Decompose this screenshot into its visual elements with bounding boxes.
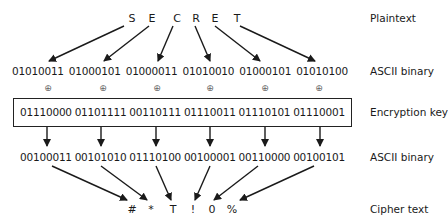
xor-icon: ⊕ (44, 83, 52, 93)
key-value: 01110011 (184, 106, 236, 118)
ciphertext-label: Cipher text (370, 203, 428, 215)
key-value: 01110001 (293, 106, 345, 118)
binary-value: 01010100 (296, 65, 348, 77)
binary-value: 00100101 (293, 151, 345, 163)
xor-icon: ⊕ (153, 83, 161, 93)
binary-value: 01000101 (69, 65, 121, 77)
ciphertext-char: T (170, 203, 177, 216)
plaintext-char: S (129, 12, 136, 25)
binary-value: 01110100 (129, 151, 181, 163)
xor-icon: ⊕ (99, 83, 107, 93)
ciphertext-char: # (127, 203, 136, 216)
ascii-plain-row: 01010011 01000101 01000011 01010010 0100… (12, 65, 348, 77)
binary-value: 00100001 (184, 151, 236, 163)
key-value: 00110111 (129, 106, 181, 118)
ascii-plain-label: ASCII binary (370, 65, 434, 77)
binary-value: 00100011 (20, 151, 72, 163)
encryption-key-label: Encryption key (370, 106, 448, 118)
ciphertext-char: 0 (209, 203, 216, 216)
binary-value: 01010011 (12, 65, 64, 77)
key-value: 01110101 (239, 106, 291, 118)
plaintext-char: T (234, 12, 241, 25)
ciphertext-char: ! (191, 203, 195, 216)
xor-icon: ⊕ (315, 83, 323, 93)
plaintext-char: C (173, 12, 181, 25)
ciphertext-char: * (148, 203, 154, 216)
plaintext-char: E (149, 12, 156, 25)
binary-value: 00101010 (75, 151, 127, 163)
key-value: 01101111 (75, 106, 127, 118)
xor-icon: ⊕ (261, 83, 269, 93)
binary-value: 01010010 (182, 65, 234, 77)
binary-value: 01000101 (239, 65, 291, 77)
xor-icon: ⊕ (206, 83, 214, 93)
plaintext-char: E (212, 12, 219, 25)
ciphertext-char: % (227, 203, 237, 216)
key-value: 01110000 (20, 106, 72, 118)
ascii-cipher-label: ASCII binary (370, 151, 434, 163)
binary-value: 01000011 (126, 65, 178, 77)
plaintext-label: Plaintext (370, 12, 416, 24)
plaintext-char: R (192, 12, 200, 25)
key-row: 01110000 01101111 00110111 01110011 0111… (20, 106, 345, 118)
ascii-cipher-row: 00100011 00101010 01110100 00100001 0011… (20, 151, 345, 163)
binary-value: 00110000 (239, 151, 291, 163)
